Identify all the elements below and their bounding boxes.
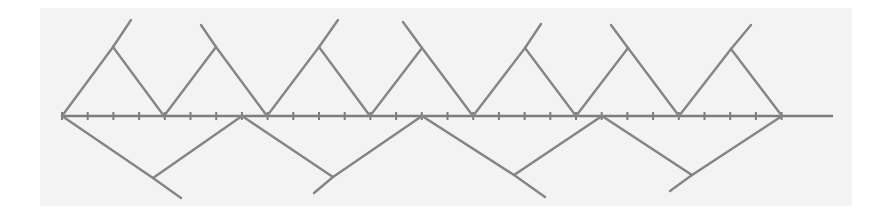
upper-zigzag-path bbox=[62, 47, 782, 116]
lower-valley-extension bbox=[314, 177, 333, 193]
lower-zigzag bbox=[62, 116, 782, 198]
upper-peak-extension bbox=[113, 20, 131, 47]
upper-peak-extension bbox=[319, 20, 338, 47]
upper-peak-extension bbox=[731, 25, 751, 49]
zigzag-diagram bbox=[0, 0, 894, 221]
lower-valley-extension bbox=[153, 178, 181, 198]
upper-zigzag bbox=[62, 20, 782, 116]
horizontal-axis bbox=[62, 112, 833, 120]
lower-valley-extension bbox=[514, 175, 545, 197]
upper-peak-extension bbox=[201, 25, 216, 47]
lower-zigzag-path bbox=[62, 116, 782, 178]
upper-peak-extension bbox=[611, 25, 628, 48]
upper-peak-extension bbox=[403, 22, 422, 48]
upper-peak-extension bbox=[525, 24, 541, 48]
lower-valley-extension bbox=[670, 175, 692, 191]
